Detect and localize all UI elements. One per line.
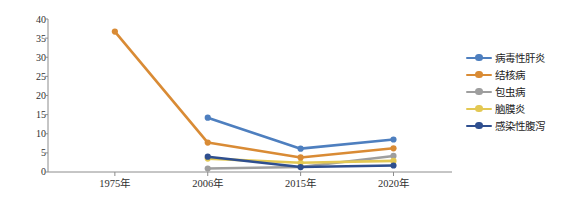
- data-point: [298, 164, 304, 170]
- legend-marker-icon: [466, 103, 492, 115]
- legend-marker-icon: [466, 52, 492, 64]
- legend-item-meningitis[interactable]: 脑膜炎: [466, 101, 566, 116]
- data-point: [298, 154, 304, 160]
- series-line: [115, 32, 394, 158]
- data-point: [205, 115, 211, 121]
- legend-label: 感染性腹泻: [495, 118, 545, 133]
- legend-marker-icon: [466, 86, 492, 98]
- data-point: [205, 154, 211, 160]
- data-point: [112, 29, 118, 35]
- legend-label: 脑膜炎: [495, 101, 525, 116]
- series-line: [208, 118, 394, 149]
- data-point: [390, 162, 396, 168]
- legend-label: 病毒性肝炎: [495, 50, 545, 65]
- legend-item-infectious-diarrhea[interactable]: 感染性腹泻: [466, 118, 566, 133]
- data-point: [205, 165, 211, 171]
- x-axis-ticks: [115, 172, 394, 176]
- legend: 病毒性肝炎 结核病 包虫病 脑膜炎: [466, 50, 566, 135]
- legend-label: 包虫病: [495, 84, 525, 99]
- data-point: [298, 146, 304, 152]
- legend-label: 结核病: [495, 67, 525, 82]
- data-series: [112, 29, 397, 161]
- data-series-group: [112, 29, 397, 172]
- legend-marker-icon: [466, 69, 492, 81]
- legend-item-viral-hepatitis[interactable]: 病毒性肝炎: [466, 50, 566, 65]
- data-point: [390, 145, 396, 151]
- axes: [45, 19, 452, 176]
- legend-item-tuberculosis[interactable]: 结核病: [466, 67, 566, 82]
- data-point: [205, 139, 211, 145]
- chart-container: 死亡率（1/10万） 40 35 30 25 20 15 10 5 0 1975…: [0, 0, 569, 199]
- data-point: [390, 136, 396, 142]
- legend-item-echinococcosis[interactable]: 包虫病: [466, 84, 566, 99]
- legend-marker-icon: [466, 120, 492, 132]
